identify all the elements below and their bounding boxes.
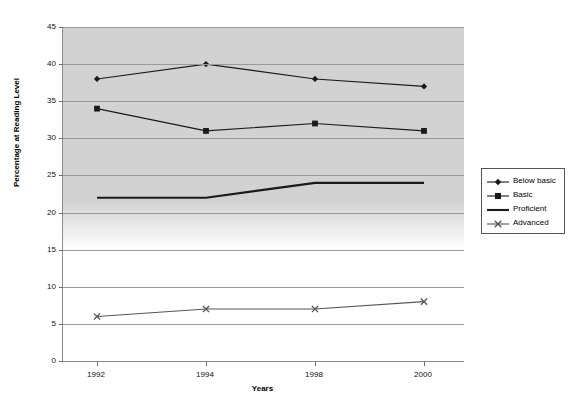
series-basic xyxy=(94,106,427,134)
data-point-marker xyxy=(421,128,427,134)
y-tick-label: 0 xyxy=(52,357,56,365)
gridline xyxy=(63,213,464,214)
data-point-marker xyxy=(203,128,209,134)
y-tick-label: 25 xyxy=(47,171,56,179)
data-point-marker xyxy=(312,121,318,127)
y-tick-mark xyxy=(59,27,63,28)
plot-area xyxy=(62,27,464,362)
series-line xyxy=(97,109,424,131)
y-tick-label: 40 xyxy=(47,60,56,68)
x-axis-title: Years xyxy=(62,384,463,393)
gridline xyxy=(63,101,464,102)
gridline xyxy=(63,250,464,251)
y-tick-mark xyxy=(59,324,63,325)
y-axis-title: Percentage at Reading Level xyxy=(12,43,21,223)
legend-marker-none-icon xyxy=(485,202,511,214)
data-point-marker xyxy=(94,76,100,82)
gridline xyxy=(63,27,464,28)
series-layer xyxy=(63,27,464,361)
y-tick-mark xyxy=(59,213,63,214)
series-line xyxy=(97,64,424,86)
x-tick-mark xyxy=(424,361,425,366)
reading-level-line-chart: Percentage of Students at each Reading L… xyxy=(0,0,573,418)
series-below-basic xyxy=(94,61,427,89)
y-tick-mark xyxy=(59,287,63,288)
x-tick-mark xyxy=(206,361,207,366)
legend-item-label: Basic xyxy=(511,190,533,199)
chart-legend: Below basicBasicProficientAdvanced xyxy=(481,168,565,234)
y-tick-label: 35 xyxy=(47,97,56,105)
gridline xyxy=(63,287,464,288)
y-tick-mark xyxy=(59,64,63,65)
x-tick-label: 2000 xyxy=(393,370,453,379)
y-tick-mark xyxy=(59,361,63,362)
y-tick-label: 20 xyxy=(47,209,56,217)
series-line xyxy=(97,183,424,198)
x-tick-mark xyxy=(315,361,316,366)
y-tick-mark xyxy=(59,101,63,102)
series-advanced xyxy=(94,299,427,320)
data-point-marker xyxy=(312,76,318,82)
y-tick-label: 30 xyxy=(47,134,56,142)
series-proficient xyxy=(97,183,424,198)
y-tick-mark xyxy=(59,250,63,251)
y-tick-label: 45 xyxy=(47,23,56,31)
gridline xyxy=(63,324,464,325)
x-tick-label: 1998 xyxy=(284,370,344,379)
legend-marker-diamond-icon xyxy=(485,174,511,186)
legend-item-label: Advanced xyxy=(511,218,549,227)
legend-item-label: Below basic xyxy=(511,176,556,185)
y-tick-label: 15 xyxy=(47,246,56,254)
legend-item-label: Proficient xyxy=(511,204,546,213)
y-tick-mark xyxy=(59,138,63,139)
legend-item: Basic xyxy=(485,187,561,201)
x-tick-label: 1994 xyxy=(175,370,235,379)
x-tick-label: 1992 xyxy=(66,370,126,379)
legend-item: Proficient xyxy=(485,201,561,215)
legend-item: Advanced xyxy=(485,215,561,229)
data-point-marker xyxy=(94,106,100,112)
gridline xyxy=(63,138,464,139)
y-tick-label: 5 xyxy=(52,320,56,328)
y-tick-mark xyxy=(59,175,63,176)
legend-item: Below basic xyxy=(485,173,561,187)
series-line xyxy=(97,302,424,317)
data-point-marker xyxy=(421,83,427,89)
x-tick-mark xyxy=(97,361,98,366)
y-tick-label: 10 xyxy=(47,283,56,291)
legend-marker-square-icon xyxy=(485,188,511,200)
gridline xyxy=(63,64,464,65)
gridline xyxy=(63,175,464,176)
legend-marker-x-icon xyxy=(485,216,511,228)
